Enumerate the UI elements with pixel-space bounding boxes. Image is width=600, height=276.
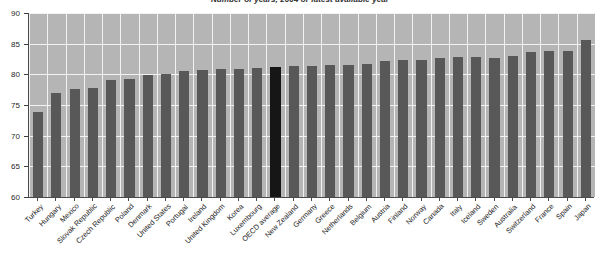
bars-layer [29,13,595,197]
bar-australia[interactable] [508,56,518,197]
x-tick-mark [183,198,184,201]
bar-japan[interactable] [581,40,591,197]
bar-luxembourg[interactable] [252,68,262,197]
x-tick-label: Spain [554,202,574,222]
x-tick-mark [494,198,495,201]
y-tick-label: 60 [11,193,20,202]
x-tick-label: Japan [572,202,593,223]
y-tick-label: 85 [11,39,20,48]
x-axis-labels: TurkeyHungaryMexicoSlovak RepublicCzech … [28,198,594,276]
plot-area [28,13,595,197]
y-tick-label: 80 [11,70,20,79]
bar-turkey[interactable] [33,112,43,197]
x-tick-mark [366,198,367,201]
bar-norway[interactable] [416,60,426,197]
bar-canada[interactable] [435,58,445,197]
bar-iceland[interactable] [471,57,481,197]
y-tick-label: 70 [11,131,20,140]
bar-sweden[interactable] [489,58,499,197]
x-tick-mark [55,198,56,201]
life-expectancy-bar-chart: Number of years, 2004 or latest availabl… [0,0,600,276]
bar-portugal[interactable] [179,71,189,197]
x-tick-mark [512,198,513,201]
chart-title: Number of years, 2004 or latest availabl… [0,0,600,4]
bar-netherlands[interactable] [343,65,353,197]
y-tick-label: 75 [11,101,20,110]
bar-italy[interactable] [453,57,463,197]
bar-denmark[interactable] [143,75,153,197]
bar-austria[interactable] [380,61,390,197]
bar-germany[interactable] [307,66,317,197]
bar-france[interactable] [544,51,554,197]
x-tick-mark [457,198,458,201]
bar-greece[interactable] [325,65,335,197]
x-tick-mark [201,198,202,201]
x-tick-mark [530,198,531,201]
bar-belgium[interactable] [362,64,372,197]
x-tick-mark [256,198,257,201]
y-tick-label: 65 [11,162,20,171]
bar-switzerland[interactable] [526,52,536,197]
bar-spain[interactable] [563,51,573,197]
bar-mexico[interactable] [70,89,80,197]
y-axis: 60657075808590 [0,0,28,200]
bar-slovak-republic[interactable] [88,88,98,197]
x-tick-mark [421,198,422,201]
bar-czech-republic[interactable] [106,80,116,197]
bar-new-zealand[interactable] [289,66,299,197]
bar-finland[interactable] [398,60,408,197]
y-tick-label: 90 [11,9,20,18]
x-tick-mark [110,198,111,201]
bar-poland[interactable] [124,79,134,197]
x-tick-mark [475,198,476,201]
x-tick-mark [37,198,38,201]
x-tick-label: France [533,202,556,225]
bar-hungary[interactable] [51,93,61,197]
x-tick-mark [293,198,294,201]
bar-oecd-average[interactable] [270,67,280,197]
bar-united-states[interactable] [161,74,171,197]
bar-ireland[interactable] [197,70,207,197]
bar-united-kingdom[interactable] [216,69,226,197]
bar-korea[interactable] [234,69,244,197]
